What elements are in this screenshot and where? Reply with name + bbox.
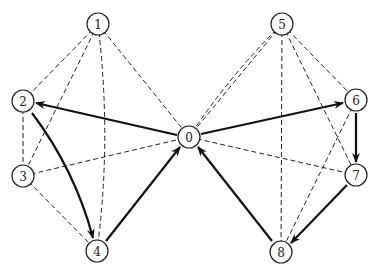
arrow-4-0: [106, 147, 180, 241]
node-label: 5: [278, 18, 286, 32]
nodes: 012345678: [12, 13, 367, 263]
edge-0-7: [189, 137, 356, 175]
node-8: 8: [270, 241, 292, 263]
node-label: 1: [94, 18, 102, 32]
node-label: 2: [19, 95, 27, 109]
arrow-7-8: [291, 185, 347, 243]
node-label: 7: [352, 169, 360, 183]
edge-5-6: [282, 24, 356, 100]
node-2: 2: [12, 90, 34, 112]
node-3: 3: [12, 165, 34, 187]
arrow-2-4: [32, 113, 93, 238]
node-label: 0: [185, 131, 193, 145]
node-6: 6: [345, 89, 367, 111]
node-4: 4: [86, 240, 108, 262]
node-label: 4: [93, 245, 101, 259]
node-1: 1: [87, 13, 109, 35]
edge-5-8: [281, 24, 282, 252]
node-label: 8: [277, 246, 285, 260]
arrow-0-2: [36, 103, 177, 135]
edge-1-2: [23, 24, 98, 101]
edge-3-0: [23, 137, 189, 176]
node-0: 0: [178, 126, 200, 148]
node-5: 5: [271, 13, 293, 35]
graph-diagram: 012345678: [0, 0, 375, 274]
directed-edges: [32, 103, 356, 243]
arrow-0-6: [201, 103, 343, 134]
edge-1-4: [97, 24, 105, 251]
node-label: 3: [19, 170, 27, 184]
node-7: 7: [345, 164, 367, 186]
arrow-8-0: [198, 147, 272, 241]
node-label: 6: [352, 94, 360, 108]
